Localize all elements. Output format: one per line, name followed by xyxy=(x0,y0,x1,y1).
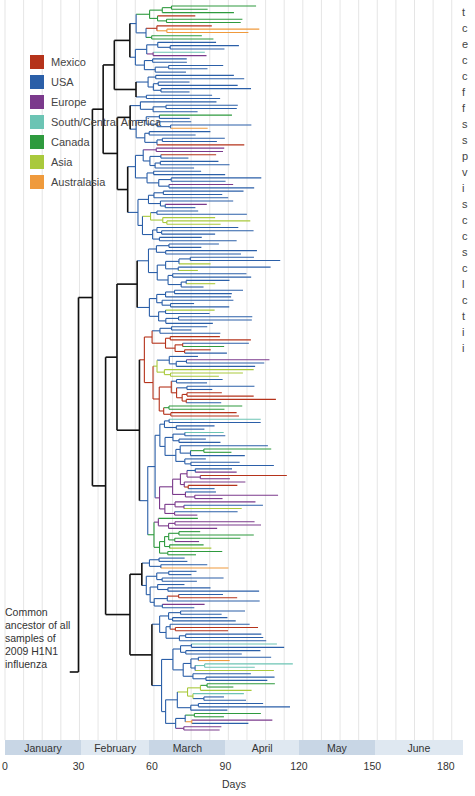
side-text-fragment: e xyxy=(462,36,475,52)
legend-swatch xyxy=(30,155,44,169)
month-timeline: JanuaryFebruaryMarchAprilMayJune xyxy=(5,740,463,755)
legend-item-australasia: Australasia xyxy=(30,172,161,192)
x-axis-ticks: 0306090120150180 xyxy=(0,760,475,774)
legend-label: Asia xyxy=(51,156,72,168)
month-june: June xyxy=(375,740,463,755)
legend-item-usa: USA xyxy=(30,72,161,92)
side-text-fragment: c xyxy=(462,260,475,276)
month-may: May xyxy=(299,740,375,755)
side-text-fragment: f xyxy=(462,84,475,100)
side-text-fragment: i xyxy=(462,340,475,356)
legend-item-europe: Europe xyxy=(30,92,161,112)
legend-item-canada: Canada xyxy=(30,132,161,152)
x-tick-label: 60 xyxy=(146,760,158,772)
side-text-fragment: f xyxy=(462,100,475,116)
x-tick-label: 120 xyxy=(290,760,308,772)
legend-label: Australasia xyxy=(51,176,105,188)
cropped-side-text: tceccffsspvisccsclctii xyxy=(462,4,475,356)
x-tick-label: 180 xyxy=(437,760,455,772)
side-text-fragment: c xyxy=(462,292,475,308)
legend-item-sca: South/Central America xyxy=(30,112,161,132)
side-text-fragment: s xyxy=(462,244,475,260)
side-text-fragment: c xyxy=(462,20,475,36)
side-text-fragment: i xyxy=(462,180,475,196)
month-april: April xyxy=(225,740,298,755)
x-tick-label: 0 xyxy=(2,760,8,772)
legend-swatch xyxy=(30,135,44,149)
x-tick-label: 30 xyxy=(73,760,85,772)
month-january: January xyxy=(5,740,81,755)
side-text-fragment: t xyxy=(462,308,475,324)
side-text-fragment: v xyxy=(462,164,475,180)
legend-swatch xyxy=(30,115,44,129)
x-tick-label: 150 xyxy=(364,760,382,772)
side-text-fragment: s xyxy=(462,196,475,212)
ancestor-note-line: 2009 H1N1 xyxy=(5,645,85,658)
x-axis-title: Days xyxy=(222,778,246,790)
ancestor-note-line: Common xyxy=(5,606,85,619)
legend-item-asia: Asia xyxy=(30,152,161,172)
ancestor-note-line: influenza xyxy=(5,658,85,671)
legend-swatch xyxy=(30,55,44,69)
side-text-fragment: p xyxy=(462,148,475,164)
legend: MexicoUSAEuropeSouth/Central AmericaCana… xyxy=(30,52,161,192)
legend-swatch xyxy=(30,95,44,109)
ancestor-annotation: Commonancestor of allsamples of2009 H1N1… xyxy=(5,606,85,671)
side-text-fragment: i xyxy=(462,324,475,340)
legend-item-mexico: Mexico xyxy=(30,52,161,72)
side-text-fragment: c xyxy=(462,228,475,244)
side-text-fragment: c xyxy=(462,212,475,228)
legend-swatch xyxy=(30,175,44,189)
legend-swatch xyxy=(30,75,44,89)
side-text-fragment: s xyxy=(462,116,475,132)
ancestor-note-line: ancestor of all xyxy=(5,619,85,632)
side-text-fragment: l xyxy=(462,276,475,292)
month-february: February xyxy=(81,740,150,755)
legend-label: South/Central America xyxy=(51,116,161,128)
legend-label: Europe xyxy=(51,96,86,108)
month-march: March xyxy=(149,740,225,755)
side-text-fragment: s xyxy=(462,132,475,148)
x-tick-label: 90 xyxy=(220,760,232,772)
side-text-fragment: c xyxy=(462,52,475,68)
side-text-fragment: t xyxy=(462,4,475,20)
legend-label: Canada xyxy=(51,136,90,148)
legend-label: Mexico xyxy=(51,56,86,68)
ancestor-note-line: samples of xyxy=(5,632,85,645)
legend-label: USA xyxy=(51,76,74,88)
side-text-fragment: c xyxy=(462,68,475,84)
